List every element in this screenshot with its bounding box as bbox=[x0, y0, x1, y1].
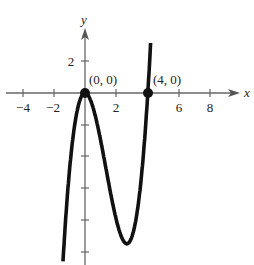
point-four-zero bbox=[143, 88, 153, 98]
point-origin-label: (0, 0) bbox=[89, 72, 117, 87]
x-tick-label: −2 bbox=[46, 100, 60, 115]
point-origin bbox=[80, 88, 90, 98]
function-graph: x −4 −2 2 6 8 y 2 (0, 0) (4, 0) bbox=[0, 0, 254, 265]
y-tick-label: 2 bbox=[68, 54, 75, 69]
y-axis-label: y bbox=[79, 12, 87, 27]
x-tick-label: 8 bbox=[207, 100, 214, 115]
x-tick-label: 6 bbox=[176, 100, 183, 115]
x-axis-label: x bbox=[243, 85, 250, 100]
x-tick-label: −4 bbox=[16, 100, 30, 115]
x-tick-label: 2 bbox=[113, 100, 120, 115]
point-four-label: (4, 0) bbox=[153, 72, 181, 87]
x-axis: x −4 −2 2 6 8 bbox=[6, 85, 250, 115]
y-axis: y 2 bbox=[68, 12, 89, 265]
